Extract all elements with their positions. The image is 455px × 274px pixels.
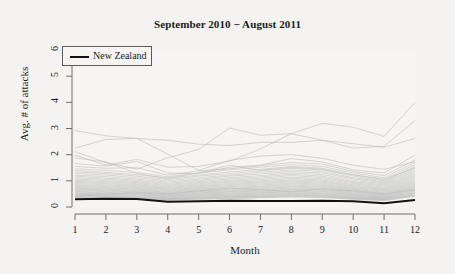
y-tick-label: 0	[49, 198, 60, 214]
x-tick-label: 12	[403, 224, 427, 235]
y-tick-label: 1	[49, 171, 60, 187]
x-tick-label: 5	[187, 224, 211, 235]
legend-label-new-zealand: New Zealand	[93, 50, 147, 61]
x-tick-label: 7	[248, 224, 272, 235]
y-tick-marks	[66, 50, 72, 207]
x-tick-label: 3	[125, 224, 149, 235]
y-tick-label: 3	[49, 119, 60, 135]
y-axis-title: Avg. # of attacks	[18, 44, 30, 164]
x-tick-label: 2	[94, 224, 118, 235]
x-tick-label: 4	[156, 224, 180, 235]
x-tick-label: 11	[372, 224, 396, 235]
x-axis-title: Month	[75, 244, 415, 256]
y-tick-label: 6	[49, 41, 60, 57]
legend-line-swatch	[70, 56, 89, 58]
x-tick-label: 8	[279, 224, 303, 235]
legend: New Zealand	[62, 46, 152, 66]
x-tick-label: 6	[218, 224, 242, 235]
y-tick-label: 4	[49, 93, 60, 109]
x-tick-label: 9	[310, 224, 334, 235]
y-tick-label: 2	[49, 145, 60, 161]
x-tick-label: 1	[63, 224, 87, 235]
y-tick-label: 5	[49, 67, 60, 83]
chart-figure: September 2010 − August 2011 0123456 123…	[0, 0, 455, 274]
x-tick-label: 10	[341, 224, 365, 235]
x-tick-marks	[75, 214, 415, 220]
